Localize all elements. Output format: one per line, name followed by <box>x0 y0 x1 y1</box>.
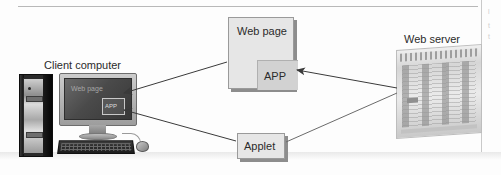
web-page-box: Web page APP <box>228 17 294 89</box>
server-body <box>396 44 482 139</box>
drive-bay <box>26 132 43 138</box>
power-led-icon <box>28 87 31 90</box>
computer-monitor-icon: Web page APP <box>59 73 137 131</box>
line-server-to-applet <box>286 93 397 142</box>
web-page-box-label: Web page <box>237 25 287 37</box>
applet-box-label: Applet <box>244 140 275 152</box>
margin-note-3: t <box>488 33 490 40</box>
screen-web-page-label: Web page <box>71 85 103 92</box>
keyboard-keys <box>61 143 132 151</box>
web-server-illustration <box>396 47 482 136</box>
arrow-server-to-app <box>297 70 397 88</box>
screen-app-box: APP <box>102 98 125 115</box>
app-box-label: APP <box>264 70 286 82</box>
server-header-strip <box>400 48 478 61</box>
client-computer-illustration: Web page APP <box>14 71 154 160</box>
monitor-bezel: Web page APP <box>59 73 137 126</box>
drive-bay <box>26 96 43 102</box>
screen-app-label: APP <box>105 103 117 109</box>
tower-side-panel <box>43 75 52 156</box>
computer-tower-icon <box>19 74 53 157</box>
server-row-lines <box>402 60 476 127</box>
margin-note-1: l <box>488 8 490 15</box>
tower-front-panel <box>23 78 44 154</box>
page-rule-top <box>18 6 478 7</box>
monitor-screen: Web page APP <box>64 78 132 120</box>
web-server-label: Web server <box>404 33 460 45</box>
server-highlight-cell <box>407 97 418 103</box>
keyboard-icon <box>57 140 135 154</box>
monitor-base <box>79 133 117 140</box>
diagram-figure: l t t Client computer Web page APP <box>0 0 501 175</box>
app-box: APP <box>257 60 298 90</box>
mouse-icon <box>136 141 149 152</box>
margin-note-2: t <box>488 22 490 29</box>
applet-box: Applet <box>237 133 285 159</box>
client-computer-label: Client computer <box>44 59 121 71</box>
